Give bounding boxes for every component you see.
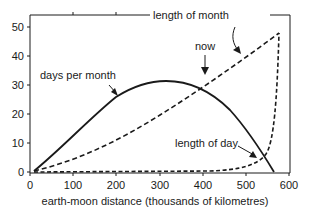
length-of-month-label: length of month — [153, 9, 229, 21]
days-per-month-curve — [34, 81, 274, 172]
x-tick-label: 600 — [280, 179, 298, 191]
length-of-month-curve — [34, 33, 279, 171]
x-tick-label: 100 — [64, 179, 82, 191]
arrow-icon — [233, 27, 238, 50]
x-tick-label: 0 — [27, 179, 33, 191]
x-tick-label: 500 — [237, 179, 255, 191]
y-tick-label: 20 — [12, 108, 24, 120]
arrowhead-icon — [249, 151, 257, 158]
arrowhead-icon — [201, 67, 209, 75]
days-per-month-label: days per month — [40, 69, 116, 81]
axes-frame — [30, 15, 290, 173]
length-of-day-curve — [34, 33, 279, 172]
x-tick-label: 300 — [151, 179, 169, 191]
x-axis-ticks — [30, 12, 289, 176]
arrowhead-icon — [233, 46, 241, 54]
x-axis-title: earth-moon distance (thousands of kilome… — [42, 195, 269, 207]
chart: 0 10 20 30 40 50 0 100 200 300 400 500 6… — [0, 0, 309, 214]
length-of-day-label: length of day — [175, 137, 238, 149]
y-axis-labels: 0 10 20 30 40 50 — [12, 21, 24, 178]
y-tick-label: 0 — [18, 166, 24, 178]
y-tick-label: 10 — [12, 137, 24, 149]
y-tick-label: 30 — [12, 79, 24, 91]
x-tick-label: 200 — [107, 179, 125, 191]
x-tick-label: 400 — [194, 179, 212, 191]
x-axis-labels: 0 100 200 300 400 500 600 — [27, 179, 298, 191]
now-label: now — [195, 40, 215, 52]
y-tick-label: 50 — [12, 21, 24, 33]
y-tick-label: 40 — [12, 50, 24, 62]
